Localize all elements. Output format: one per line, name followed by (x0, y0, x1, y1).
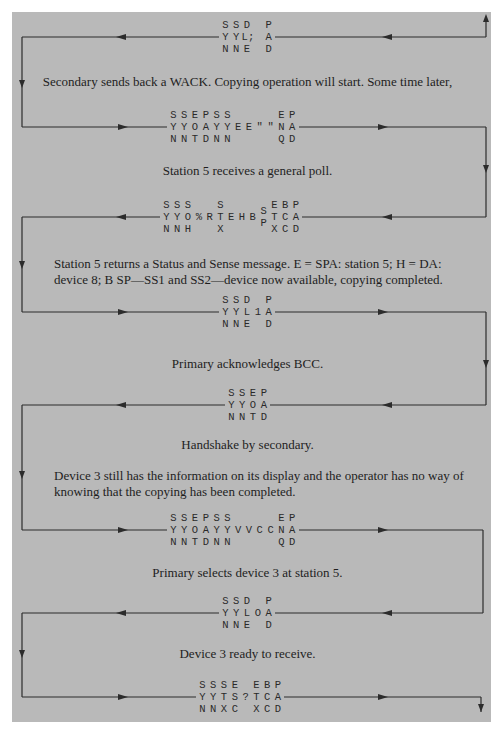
frame-7-sequence: SYNSYNDLEOPAD (219, 595, 275, 631)
caption-handshake: Handshake by secondary. (0, 437, 495, 453)
frame-6-sequence: SYNSYNEOTPADSYNSYNVVCCENQPAD (167, 512, 299, 548)
frame-2-sequence: SYNSYNEOTPADSYNSYNEE""ENQPAD (167, 109, 299, 145)
caption-general-poll: Station 5 receives a general poll. (0, 163, 495, 179)
caption-status-sense: Station 5 returns a Status and Sense mes… (54, 256, 464, 288)
frame-1-sequence: SYNSYNDL;EPAD (219, 19, 275, 55)
caption-wack: Secondary sends back a WACK. Copying ope… (0, 74, 495, 90)
caption-ready-receive: Device 3 ready to receive. (0, 646, 495, 662)
caption-select-device: Primary selects device 3 at station 5. (0, 565, 495, 581)
frame-3-sequence: SYNSYNSOH%RSTXEHBSPETXBCCPAD (160, 199, 302, 235)
frame-4-sequence: SYNSYNDLE1PAD (219, 294, 275, 330)
frame-8-sequence: SYNSYNSTXESC?ETXBCCPAD (196, 679, 284, 715)
frame-5-sequence: SYNSYNEOTPAD (225, 387, 270, 423)
caption-device-display: Device 3 still has the information on it… (54, 468, 464, 500)
caption-ack-bcc: Primary acknowledges BCC. (0, 356, 495, 372)
